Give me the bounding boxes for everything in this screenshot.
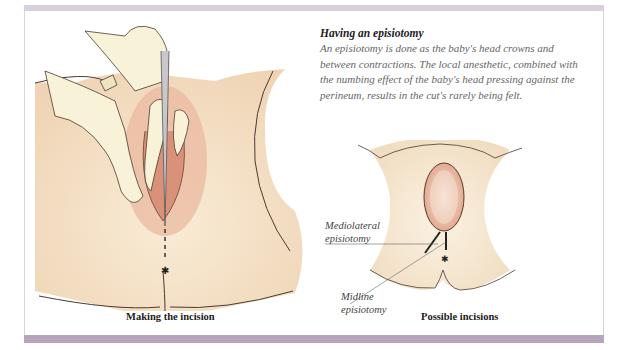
svg-text:✱: ✱	[441, 254, 449, 264]
midline-label-line1: Midline	[341, 290, 387, 303]
right-figure-caption: Possible incisions	[421, 311, 498, 322]
sidebar-panel: Having an episiotomy An episiotomy is do…	[320, 26, 592, 103]
sidebar-title: Having an episiotomy	[320, 26, 592, 41]
midline-label: Midline episiotomy	[341, 290, 387, 316]
svg-text:✱: ✱	[161, 265, 169, 276]
making-incision-illustration: ✱	[25, 11, 315, 311]
midline-label-line2: episiotomy	[341, 303, 387, 316]
left-figure-caption: Making the incision	[126, 311, 215, 322]
mediolateral-label-line2: episiotomy	[325, 232, 380, 245]
mediolateral-label: Mediolateral episiotomy	[325, 219, 380, 245]
mediolateral-label-line1: Mediolateral	[325, 219, 380, 232]
bottom-border-bar	[24, 335, 604, 343]
sidebar-body: An episiotomy is done as the baby's head…	[320, 41, 592, 103]
